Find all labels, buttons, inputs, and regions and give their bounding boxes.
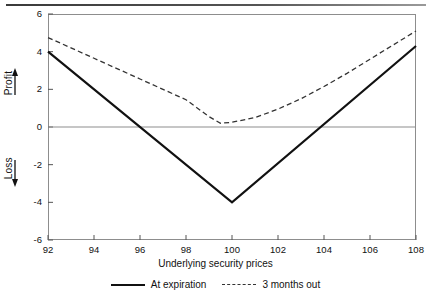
y-axis-title: Loss Profit	[0, 40, 20, 210]
y-tick-label: 6	[20, 8, 42, 19]
y-axis-label-loss: Loss	[3, 157, 14, 179]
x-tick-label: 92	[33, 244, 63, 255]
y-tick-label: 2	[20, 83, 42, 94]
legend-label-3-months-out: 3 months out	[262, 279, 320, 290]
series-at-expiration-line	[48, 46, 416, 202]
chart-legend: At expiration 3 months out	[0, 279, 431, 290]
y-axis-label-profit: Profit	[3, 71, 14, 96]
legend-item-3-months-out: 3 months out	[222, 279, 320, 290]
legend-swatch-dashed-icon	[222, 284, 256, 285]
y-tick-label: 0	[20, 121, 42, 132]
y-tick-label: 4	[20, 46, 42, 57]
legend-swatch-solid-icon	[111, 284, 145, 286]
x-tick-label: 100	[217, 244, 247, 255]
y-tick-label: -4	[20, 196, 42, 207]
x-tick-label: 98	[171, 244, 201, 255]
legend-item-at-expiration: At expiration	[111, 279, 207, 290]
y-axis-title-text: Loss Profit	[3, 71, 14, 179]
x-tick-label: 104	[309, 244, 339, 255]
x-tick-label: 94	[79, 244, 109, 255]
x-tick-label: 106	[355, 244, 385, 255]
x-tick-label: 96	[125, 244, 155, 255]
x-axis-title: Underlying security prices	[0, 258, 431, 269]
chart-page: 6420-2-4-6 92949698100102104106108 Loss …	[0, 0, 431, 297]
x-tick-label: 108	[401, 244, 431, 255]
x-tick-label: 102	[263, 244, 293, 255]
y-tick-label: -2	[20, 159, 42, 170]
legend-label-at-expiration: At expiration	[151, 279, 207, 290]
series-3-months-out-line	[48, 31, 416, 123]
